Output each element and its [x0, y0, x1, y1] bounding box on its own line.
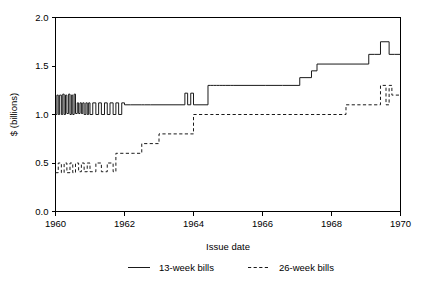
y-tick-label: 0.5 [35, 157, 48, 168]
y-tick-label: 0.0 [35, 206, 48, 217]
x-tick-label: 1966 [252, 218, 273, 229]
y-tick-label: 1.5 [35, 60, 48, 71]
x-tick-label: 1968 [321, 218, 342, 229]
x-tick-label: 1970 [390, 218, 411, 229]
chart-figure: 0.00.51.01.52.0196019621964196619681970I… [0, 0, 422, 287]
legend-label-2: 26-week bills [279, 262, 334, 273]
x-tick-label: 1960 [45, 218, 66, 229]
y-axis-title: $ (billions) [8, 93, 19, 136]
y-tick-label: 2.0 [35, 12, 48, 23]
x-tick-label: 1964 [183, 218, 204, 229]
y-tick-label: 1.0 [35, 109, 48, 120]
x-axis-title: Issue date [206, 241, 250, 252]
legend-label-1: 13-week bills [159, 262, 214, 273]
x-tick-label: 1962 [114, 218, 135, 229]
